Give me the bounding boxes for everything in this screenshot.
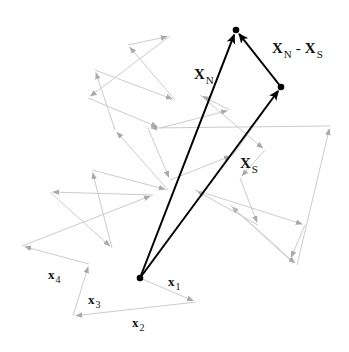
walk-step bbox=[230, 205, 295, 263]
label-x3: x3 bbox=[88, 291, 101, 307]
walk-step bbox=[128, 37, 167, 45]
walk-step bbox=[50, 192, 110, 246]
dot-end-s bbox=[278, 84, 285, 91]
walk-step bbox=[297, 129, 329, 265]
vector-x-n bbox=[140, 35, 234, 278]
walk-step bbox=[73, 267, 88, 316]
walk-step bbox=[93, 173, 112, 248]
walk-step bbox=[160, 111, 227, 128]
label-x1: x1 bbox=[168, 273, 181, 289]
walk-step bbox=[96, 73, 115, 130]
vector-x-s bbox=[140, 91, 278, 278]
label-x-n-minus-x-s: XN-XS bbox=[272, 40, 323, 56]
walk-step bbox=[200, 95, 263, 148]
walk-step bbox=[92, 170, 165, 189]
walk-step bbox=[53, 192, 153, 195]
label-x-s: XS bbox=[240, 155, 258, 171]
label-x-n: XN bbox=[194, 66, 214, 82]
walk-step bbox=[22, 196, 150, 246]
walk-step bbox=[198, 191, 258, 225]
walk-step bbox=[195, 190, 302, 224]
walk-step bbox=[140, 278, 193, 301]
walk-step bbox=[130, 47, 175, 100]
label-x2: x2 bbox=[132, 314, 145, 330]
dot-origin bbox=[137, 275, 144, 282]
walk-step bbox=[117, 132, 168, 190]
walk-step bbox=[148, 128, 169, 177]
walk-step bbox=[88, 98, 157, 127]
label-x4: x4 bbox=[48, 266, 61, 282]
dot-end-n bbox=[233, 27, 240, 34]
walk-step bbox=[151, 126, 330, 128]
walk-step bbox=[25, 247, 89, 264]
